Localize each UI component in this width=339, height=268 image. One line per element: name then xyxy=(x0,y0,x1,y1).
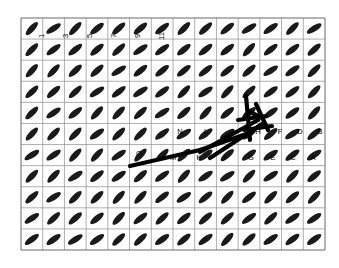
column-number-label: 9 xyxy=(133,34,142,38)
cell-letter-label: E xyxy=(270,153,275,162)
cell-letter-label: F xyxy=(278,127,283,136)
cell-letter-label: A xyxy=(310,153,315,162)
cell-letter-label: B xyxy=(317,127,322,136)
column-number-label: 3 xyxy=(61,34,70,38)
cell-letter-label: G xyxy=(248,153,254,162)
column-number-label: 5 xyxy=(85,34,94,38)
column-number-label: 7 xyxy=(109,34,118,38)
cell-letter-label: D xyxy=(297,127,303,136)
cell-letter-label: L xyxy=(204,127,208,136)
cell-letter-label: O xyxy=(136,149,142,158)
cell-letter-label: J xyxy=(230,127,234,136)
cell-letter-label: C xyxy=(290,153,296,162)
cell-letter-label: K xyxy=(196,153,201,162)
cell-letter-label: M xyxy=(170,153,176,162)
column-number-label: 1 xyxy=(37,34,46,38)
cell-letter-label: I xyxy=(224,153,226,162)
cell-letter-label: N xyxy=(177,127,182,136)
column-number-label: 11 xyxy=(157,32,166,40)
texture-grid-diagram: 1357911 OMNKLIJGHEFCDAB xyxy=(0,0,339,268)
cell-letter-label: H xyxy=(255,127,260,136)
figure-canvas: 1357911 OMNKLIJGHEFCDAB xyxy=(0,0,339,268)
